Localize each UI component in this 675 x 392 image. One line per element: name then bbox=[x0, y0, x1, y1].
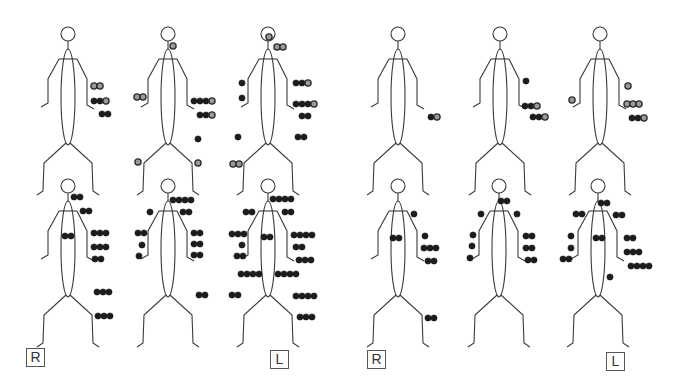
arm-right bbox=[41, 59, 59, 107]
arm-right bbox=[473, 59, 491, 107]
leg-left bbox=[501, 295, 530, 347]
symptom-dots bbox=[230, 34, 317, 167]
light-dot bbox=[230, 161, 236, 167]
dark-dot bbox=[197, 98, 203, 104]
dark-dot bbox=[234, 253, 240, 259]
head bbox=[61, 27, 75, 41]
light-dot bbox=[311, 101, 317, 107]
arm-left bbox=[607, 211, 624, 261]
dark-dot bbox=[431, 315, 437, 321]
dark-dot bbox=[624, 235, 630, 241]
dark-dot bbox=[243, 209, 249, 215]
dark-dot bbox=[101, 313, 107, 319]
light-dot bbox=[636, 101, 642, 107]
dark-dot bbox=[619, 212, 625, 218]
stick-figure-top-4 bbox=[367, 27, 440, 195]
dark-dot bbox=[646, 263, 652, 269]
leg-right bbox=[137, 295, 166, 347]
light-dot bbox=[134, 94, 140, 100]
arm-right bbox=[371, 211, 389, 259]
dark-dot bbox=[293, 80, 299, 86]
dark-dot bbox=[99, 111, 105, 117]
head bbox=[391, 179, 405, 193]
dark-dot bbox=[107, 313, 113, 319]
arm-left bbox=[509, 59, 526, 109]
dark-dot bbox=[195, 136, 201, 142]
symptom-dots bbox=[135, 197, 208, 298]
dark-dot bbox=[528, 103, 534, 109]
dark-dot bbox=[238, 271, 244, 277]
head bbox=[161, 27, 175, 41]
dark-dot bbox=[97, 230, 103, 236]
dark-dot bbox=[299, 80, 305, 86]
head bbox=[593, 27, 607, 41]
head bbox=[493, 27, 507, 41]
dark-dot bbox=[197, 112, 203, 118]
symptom-dots bbox=[428, 114, 440, 120]
dark-dot bbox=[530, 114, 536, 120]
dark-dot bbox=[250, 271, 256, 277]
dark-dot bbox=[186, 209, 192, 215]
dark-dot bbox=[196, 292, 202, 298]
dark-dot bbox=[311, 293, 317, 299]
dark-dot bbox=[425, 258, 431, 264]
dark-dot bbox=[176, 197, 182, 203]
light-dot bbox=[266, 34, 272, 40]
dark-dot bbox=[68, 233, 74, 239]
dark-dot bbox=[568, 245, 574, 251]
dark-dot bbox=[188, 197, 194, 203]
dark-dot bbox=[635, 115, 641, 121]
right-side-label: R bbox=[367, 350, 386, 369]
light-dot bbox=[280, 44, 286, 50]
dark-dot bbox=[303, 232, 309, 238]
dark-dot bbox=[607, 274, 613, 280]
arm-left bbox=[407, 59, 424, 109]
dark-dot bbox=[276, 196, 282, 202]
dark-dot bbox=[203, 98, 209, 104]
arm-left bbox=[77, 211, 94, 261]
dark-dot bbox=[202, 292, 208, 298]
left-side-label: L bbox=[606, 352, 625, 371]
dark-dot bbox=[256, 271, 262, 277]
symptom-dots bbox=[390, 211, 439, 321]
light-dot bbox=[274, 44, 280, 50]
dark-dot bbox=[568, 233, 574, 239]
dark-dot bbox=[560, 256, 566, 262]
leg-right bbox=[237, 295, 266, 347]
dark-dot bbox=[305, 113, 311, 119]
dark-dot bbox=[267, 234, 273, 240]
dark-dot bbox=[103, 244, 109, 250]
dark-dot bbox=[467, 255, 473, 261]
light-dot bbox=[170, 43, 176, 49]
dark-dot bbox=[309, 232, 315, 238]
head bbox=[261, 179, 275, 193]
dark-dot bbox=[139, 242, 145, 248]
dark-dot bbox=[91, 98, 97, 104]
leg-right bbox=[468, 295, 497, 347]
dark-dot bbox=[305, 101, 311, 107]
leg-left bbox=[70, 295, 99, 347]
dark-dot bbox=[191, 252, 197, 258]
dark-dot bbox=[182, 197, 188, 203]
dark-dot bbox=[522, 103, 528, 109]
leg-right bbox=[567, 295, 596, 347]
dark-dot bbox=[431, 258, 437, 264]
dark-dot bbox=[305, 293, 311, 299]
dark-dot bbox=[86, 208, 92, 214]
dark-dot bbox=[261, 234, 267, 240]
dark-dot bbox=[288, 209, 294, 215]
dark-dot bbox=[598, 200, 604, 206]
head bbox=[492, 179, 506, 193]
dark-dot bbox=[613, 212, 619, 218]
dark-dot bbox=[301, 134, 307, 140]
leg-left bbox=[600, 295, 629, 347]
leg-left bbox=[602, 143, 631, 195]
dark-dot bbox=[523, 245, 529, 251]
leg-left bbox=[270, 295, 299, 347]
dark-dot bbox=[270, 196, 276, 202]
dark-dot bbox=[229, 231, 235, 237]
dark-dot bbox=[295, 134, 301, 140]
stick-figure-bottom-2 bbox=[135, 179, 208, 347]
stick-figure-top-1 bbox=[37, 27, 111, 195]
dark-dot bbox=[235, 231, 241, 237]
